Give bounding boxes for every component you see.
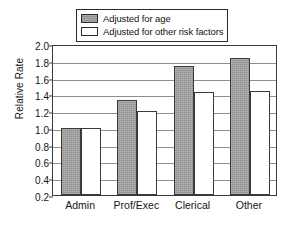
x-tick-label-other: Other [236,199,262,211]
x-tick-label-admin: Admin [65,199,95,211]
bar-prof-exec-series-2 [137,111,157,195]
bar-prof-exec-series-1 [117,100,137,195]
plot-area: 2.01.81.61.41.21.00.80.60.40.2 [52,45,277,196]
legend-item-adjusted-for-age: Adjusted for age [81,12,223,25]
y-tick-label: 0.6 [35,158,49,169]
bar-other-series-2 [250,91,270,195]
y-tick-mark [49,146,53,147]
legend-item-label: Adjusted for other risk factors [103,26,223,37]
y-tick-mark [49,163,53,164]
y-tick-mark [49,180,53,181]
bar-admin-series-1 [61,128,81,195]
filled-gray-swatch-icon [81,14,98,23]
legend-item-adjusted-for-other-risk-factors: Adjusted for other risk factors [81,25,223,38]
x-tick-label-prof-exec: Prof/Exec [114,199,160,211]
bar-clerical-series-1 [174,66,194,195]
y-tick-mark [49,197,53,198]
bar-clerical-series-2 [194,92,214,195]
y-tick-label: 1.8 [35,57,49,68]
y-tick-label: 0.8 [35,141,49,152]
y-tick-mark [49,46,53,47]
y-tick-label: 0.4 [35,175,49,186]
y-tick-label: 1.6 [35,74,49,85]
y-tick-label: 1.0 [35,124,49,135]
y-tick-mark [49,96,53,97]
bar-chart-figure: Adjusted for age Adjusted for other risk… [0,0,292,225]
bar-other-series-1 [230,58,250,195]
y-tick-mark [49,79,53,80]
y-tick-label: 0.2 [35,192,49,203]
y-tick-label: 1.2 [35,108,49,119]
open-white-swatch-icon [81,27,98,36]
chart-legend: Adjusted for age Adjusted for other risk… [76,9,228,42]
x-tick-label-clerical: Clerical [175,199,210,211]
y-tick-mark [49,113,53,114]
y-tick-mark [49,129,53,130]
y-tick-label: 2.0 [35,41,49,52]
y-axis-title: Relative Rate [14,29,25,149]
bar-admin-series-2 [81,128,101,195]
y-tick-label: 1.4 [35,91,49,102]
y-tick-mark [49,62,53,63]
legend-item-label: Adjusted for age [103,13,171,24]
